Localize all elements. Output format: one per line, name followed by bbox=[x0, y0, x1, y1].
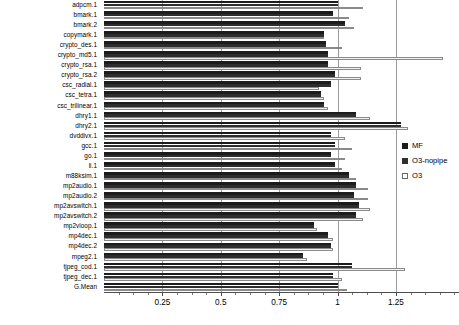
bar-o3 bbox=[104, 17, 349, 20]
bar-o3 bbox=[104, 218, 363, 221]
legend-swatch-icon bbox=[402, 158, 408, 164]
category-label: csc_tetra.1 bbox=[65, 91, 97, 99]
bar-o3 bbox=[104, 27, 354, 30]
bar-o3 bbox=[104, 289, 347, 292]
bar-o3 bbox=[104, 228, 317, 231]
x-tick-minor bbox=[381, 293, 382, 295]
bar-group bbox=[104, 282, 459, 292]
bar-o3 bbox=[104, 117, 370, 120]
x-tick-major bbox=[396, 293, 397, 296]
legend-swatch-icon bbox=[402, 143, 408, 149]
category-label: mp2avswitch.2 bbox=[54, 212, 97, 220]
bar-o3 bbox=[104, 77, 361, 80]
legend-swatch-icon bbox=[402, 173, 408, 179]
category-label: crypto_md5.1 bbox=[58, 51, 97, 59]
bar-o3 bbox=[104, 158, 345, 161]
category-label: bmark.1 bbox=[74, 11, 97, 19]
bar-group bbox=[104, 101, 459, 111]
category-label: copymark.1 bbox=[63, 31, 97, 39]
x-tick-minor bbox=[323, 293, 324, 295]
category-label: gcc.1 bbox=[81, 142, 97, 150]
x-tick-minor bbox=[425, 293, 426, 295]
bar-o3 bbox=[104, 7, 363, 10]
x-tick-minor bbox=[352, 293, 353, 295]
category-label: mp2avswitch.1 bbox=[54, 202, 97, 210]
category-label: mp4dec.1 bbox=[69, 232, 97, 240]
category-label: dvddivx.1 bbox=[70, 132, 97, 140]
category-label: crypto_des.1 bbox=[60, 41, 97, 49]
x-tick-minor bbox=[235, 293, 236, 295]
category-label: mpeg2.1 bbox=[72, 253, 97, 261]
x-tick-minor bbox=[206, 293, 207, 295]
x-tick-minor bbox=[119, 293, 120, 295]
x-tick-label: 1 bbox=[335, 298, 340, 307]
x-tick-minor bbox=[265, 293, 266, 295]
x-tick-major bbox=[338, 293, 339, 296]
x-tick-minor bbox=[454, 293, 455, 295]
category-label: dhry2.1 bbox=[75, 122, 97, 130]
category-label: mp4dec.2 bbox=[69, 242, 97, 250]
legend-item-mf[interactable]: MF bbox=[402, 138, 459, 153]
x-tick-minor bbox=[250, 293, 251, 295]
bar-group bbox=[104, 242, 459, 252]
bar-o3 bbox=[104, 37, 324, 40]
bar-group bbox=[104, 211, 459, 221]
x-tick-label: 0.75 bbox=[271, 298, 287, 307]
x-tick-minor bbox=[294, 293, 295, 295]
bar-o3 bbox=[104, 127, 408, 130]
bar-group bbox=[104, 272, 459, 282]
bar-group bbox=[104, 91, 459, 101]
bar-o3 bbox=[104, 67, 361, 70]
category-label: crypto_rsa.1 bbox=[61, 61, 97, 69]
x-tick-label: 1.25 bbox=[388, 298, 404, 307]
bar-o3 bbox=[104, 178, 356, 181]
bar-group bbox=[104, 70, 459, 80]
bar-group bbox=[104, 81, 459, 91]
x-tick-minor bbox=[411, 293, 412, 295]
bar-o3 bbox=[104, 107, 328, 110]
category-label: G.Mean bbox=[74, 283, 97, 291]
x-tick-minor bbox=[440, 293, 441, 295]
bar-group bbox=[104, 30, 459, 40]
x-tick-minor bbox=[367, 293, 368, 295]
bar-group bbox=[104, 111, 459, 121]
category-label: dhry1.1 bbox=[75, 112, 97, 120]
legend-label: O3 bbox=[412, 171, 422, 180]
x-tick-major bbox=[221, 293, 222, 296]
bar-o3 bbox=[104, 268, 405, 271]
bar-o3 bbox=[104, 238, 333, 241]
bar-group bbox=[104, 10, 459, 20]
legend-item-o3[interactable]: O3 bbox=[402, 168, 459, 183]
bar-o3 bbox=[104, 87, 319, 90]
bar-o3 bbox=[104, 248, 333, 251]
category-label: csc_radial.1 bbox=[62, 81, 97, 89]
legend-item-nopipe[interactable]: O3-nopipe bbox=[402, 153, 459, 168]
x-tick-label: 0.25 bbox=[154, 298, 170, 307]
bar-o3 bbox=[104, 97, 324, 100]
bar-group bbox=[104, 0, 459, 10]
bar-o3 bbox=[104, 258, 307, 261]
bar-o3 bbox=[104, 168, 342, 171]
x-tick-minor bbox=[192, 293, 193, 295]
bar-group bbox=[104, 60, 459, 70]
category-label: crypto_rsa.2 bbox=[61, 71, 97, 79]
category-label: m88ksim.1 bbox=[66, 172, 97, 180]
bar-o3 bbox=[104, 278, 342, 281]
x-tick-major bbox=[279, 293, 280, 296]
category-label: bmark.2 bbox=[74, 21, 97, 29]
bar-o3 bbox=[104, 208, 370, 211]
category-label: mp2vloop.1 bbox=[63, 222, 97, 230]
category-label: mp2audio.2 bbox=[63, 192, 97, 200]
x-tick-minor bbox=[133, 293, 134, 295]
x-tick-minor bbox=[148, 293, 149, 295]
bar-group bbox=[104, 20, 459, 30]
legend-label: MF bbox=[412, 141, 423, 150]
x-tick-minor bbox=[177, 293, 178, 295]
x-tick-label: 0.5 bbox=[215, 298, 226, 307]
bar-group bbox=[104, 50, 459, 60]
bar-group bbox=[104, 222, 459, 232]
bar-group bbox=[104, 252, 459, 262]
legend-label: O3-nopipe bbox=[412, 156, 447, 165]
bar-group bbox=[104, 40, 459, 50]
category-label: adpcm.1 bbox=[72, 1, 97, 9]
